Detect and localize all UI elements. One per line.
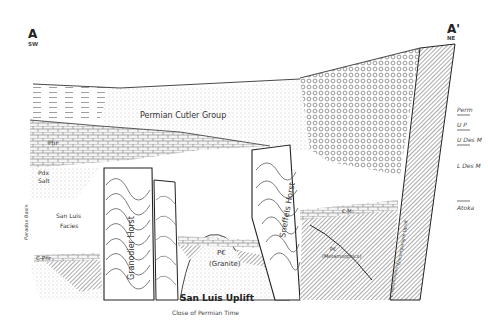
san-luis-facies-label-2: Facies — [60, 222, 78, 229]
endpoint-a-direction: SW — [28, 41, 38, 47]
c-phr-label: C-Phr — [36, 255, 52, 261]
legend-l-des-m: L Des M — [457, 162, 482, 169]
granodier-horst — [104, 168, 178, 300]
legend-u-des-m: U Des M — [457, 136, 483, 143]
pc-meta-label-2: (Metamorphics) — [322, 253, 361, 260]
pc-metamorphics-unit — [300, 200, 398, 300]
endpoint-a-letter: A — [28, 27, 38, 41]
conglomerate-unit — [300, 48, 420, 175]
san-luis-facies-label-1: San Luis — [56, 212, 81, 219]
caption: San Luis Uplift Close of Permian Time — [172, 293, 255, 316]
legend-perm: Perm — [457, 106, 473, 113]
phr-label: Phr — [48, 139, 58, 146]
pc-granite-label-1: P€ — [217, 249, 226, 257]
pc-granite-label-2: (Granite) — [209, 260, 241, 268]
right-legend: Perm U P U Des M L Des M Atoka — [456, 106, 483, 211]
endpoint-a-prime-direction: NE — [447, 35, 456, 41]
legend-u-p: U P — [457, 121, 467, 128]
cm-label: C-M — [342, 208, 352, 214]
legend-atoka: Atoka — [456, 204, 475, 211]
caption-title: San Luis Uplift — [180, 293, 255, 303]
pdx-salt-label-2: Salt — [38, 177, 50, 184]
paradox-basin-label: Paradox Basin — [23, 204, 29, 240]
cross-section-diagram: A SW A' NE Permian Cutler Group Phr Pdx … — [0, 0, 488, 329]
pdx-salt-label-1: Pdx — [38, 169, 49, 176]
caption-subtitle: Close of Permian Time — [172, 309, 239, 316]
pc-meta-label-1: P€ — [330, 246, 336, 252]
granodier-horst-label: Granodier Horst — [127, 216, 136, 280]
endpoint-a-prime-letter: A' — [447, 22, 460, 36]
cutler-label: Permian Cutler Group — [140, 111, 226, 120]
